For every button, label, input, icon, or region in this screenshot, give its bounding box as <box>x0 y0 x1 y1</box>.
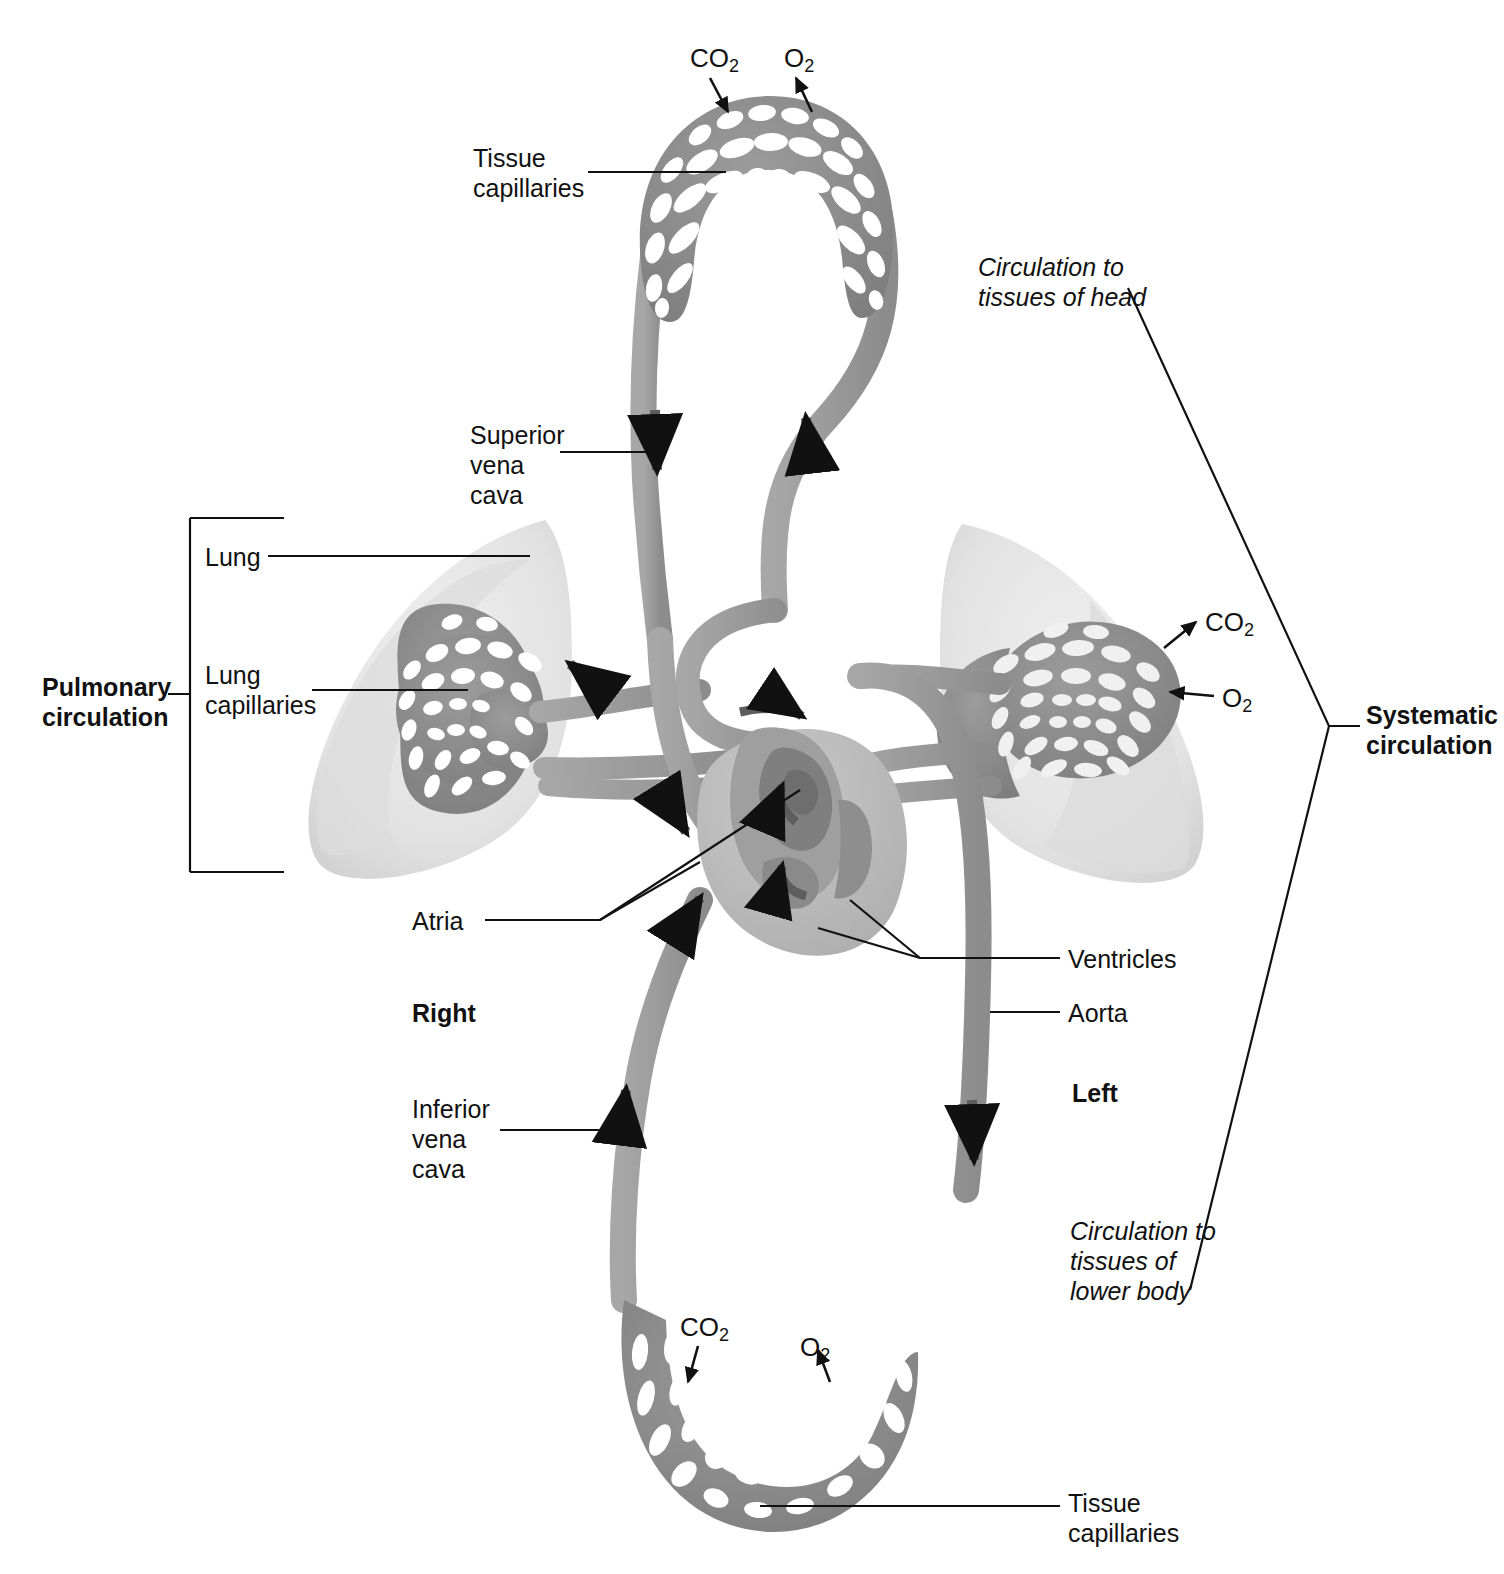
arrow-svc-down <box>655 410 657 470</box>
gas-label-o2-right-lung: O2 <box>1222 684 1252 720</box>
gas-symbol: O <box>784 43 804 73</box>
arrow-ivc-up <box>620 1090 626 1140</box>
label-tissue-capillaries-bottom: Tissuecapillaries <box>1068 1488 1179 1548</box>
label-circulation-to-lower-body: Circulation totissues oflower body <box>1070 1216 1216 1306</box>
circulation-diagram <box>0 0 1504 1574</box>
gas-subscript: 2 <box>719 1325 729 1345</box>
tissue-capillary-bed-bottom <box>621 1300 918 1532</box>
label-ventricles: Ventricles <box>1068 944 1176 974</box>
tissue-capillary-bed-top <box>640 96 894 640</box>
arrow-aorta-down <box>972 1100 974 1160</box>
label-aorta: Aorta <box>1068 998 1128 1028</box>
label-inferior-vena-cava: Inferiorvenacava <box>412 1094 490 1184</box>
gas-label-co2-bottom: CO2 <box>680 1313 729 1349</box>
label-tissue-capillaries-top: Tissuecapillaries <box>473 143 584 203</box>
gas-symbol: CO <box>690 43 729 73</box>
label-pulmonary-circulation: Pulmonarycirculation <box>42 672 171 732</box>
label-superior-vena-cava: Superiorvenacava <box>470 420 565 510</box>
gas-subscript: 2 <box>1244 620 1254 640</box>
leader-atria-1 <box>485 862 700 920</box>
label-lung-capillaries: Lungcapillaries <box>205 660 316 720</box>
label-left: Left <box>1072 1078 1118 1108</box>
gas-symbol: O <box>800 1332 820 1362</box>
gas-subscript: 2 <box>804 56 814 76</box>
gas-subscript: 2 <box>729 56 739 76</box>
label-lung: Lung <box>205 542 261 572</box>
arrow-to-left-lung <box>570 664 604 690</box>
figure-canvas: Tissuecapillaries Superiorvenacava Lung … <box>0 0 1504 1574</box>
label-atria: Atria <box>412 906 463 936</box>
gas-subscript: 2 <box>820 1345 830 1365</box>
arrow-carotid-up <box>806 418 812 470</box>
label-circulation-to-head: Circulation totissues of head <box>978 252 1146 312</box>
arrow-co2-right-lung <box>1164 622 1196 648</box>
gas-subscript: 2 <box>1242 696 1252 716</box>
gas-symbol: CO <box>680 1312 719 1342</box>
gas-label-o2-bottom: O2 <box>800 1333 830 1369</box>
label-right: Right <box>412 998 476 1028</box>
label-systematic-circulation: Systematiccirculation <box>1366 700 1498 760</box>
gas-symbol: O <box>1222 683 1242 713</box>
gas-label-co2-right-lung: CO2 <box>1205 608 1254 644</box>
gas-symbol: CO <box>1205 607 1244 637</box>
gas-label-co2-top: CO2 <box>690 44 739 80</box>
gas-label-o2-top: O2 <box>784 44 814 80</box>
